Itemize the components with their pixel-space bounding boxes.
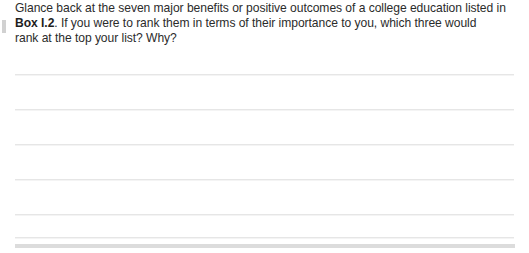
answer-rule-line[interactable]	[15, 109, 514, 110]
answer-rule-line[interactable]	[15, 179, 514, 180]
page-footer-bar	[15, 244, 515, 248]
answer-rule-line[interactable]	[15, 144, 514, 145]
answer-rule-line[interactable]	[15, 74, 514, 75]
worksheet-page: Glance back at the seven major benefits …	[0, 0, 529, 253]
answer-rule-line[interactable]	[15, 214, 514, 215]
answer-ruled-lines	[0, 0, 529, 253]
answer-rule-line[interactable]	[15, 237, 514, 238]
